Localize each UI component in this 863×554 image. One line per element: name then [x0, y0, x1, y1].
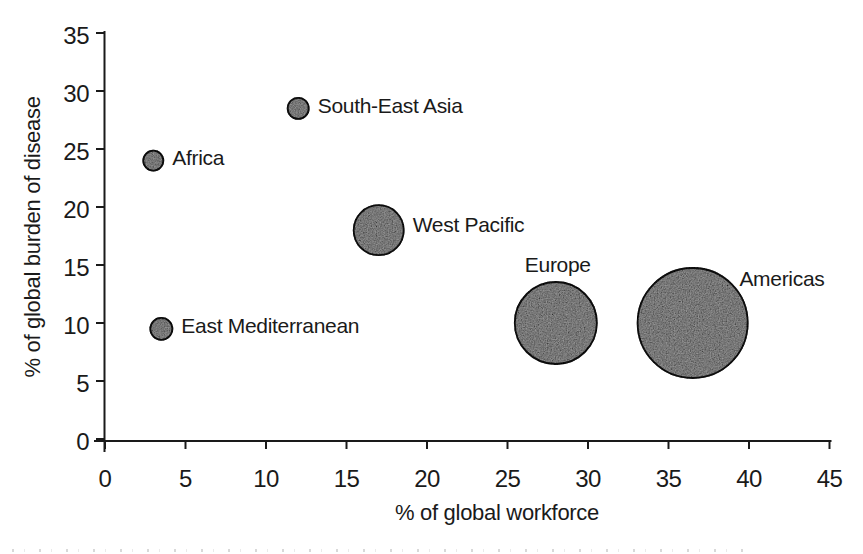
- x-tick-label-0: 0: [99, 465, 112, 492]
- bubble-east-mediterranean: [150, 318, 172, 340]
- x-axis-title: % of global workforce: [395, 500, 599, 525]
- y-tick-label-10: 10: [63, 312, 89, 339]
- bubble-west-pacific: [354, 205, 404, 255]
- cropped-caption-fragment: [12, 549, 753, 552]
- y-tick-label-5: 5: [76, 370, 89, 397]
- bubble-chart-figure: 05101520253035051015202530354045 South-E…: [0, 0, 863, 554]
- x-tick-label-20: 20: [414, 465, 440, 492]
- y-tick-label-15: 15: [63, 254, 89, 281]
- bubble-label-east-mediterranean: East Mediterranean: [181, 314, 359, 337]
- bubble-europe: [515, 282, 597, 364]
- x-tick-label-45: 45: [817, 465, 843, 492]
- x-tick-label-5: 5: [179, 465, 192, 492]
- y-axis-title: % of global burden of disease: [20, 96, 45, 377]
- x-tick-label-35: 35: [656, 465, 682, 492]
- x-tick-label-30: 30: [575, 465, 601, 492]
- bubble-label-americas: Americas: [739, 267, 824, 290]
- axes: 05101520253035051015202530354045: [63, 22, 842, 493]
- x-tick-label-10: 10: [253, 465, 279, 492]
- bubble-series: South-East AsiaAfricaWest PacificEast Me…: [143, 94, 824, 378]
- bubble-label-europe: Europe: [525, 253, 591, 276]
- x-tick-label-40: 40: [736, 465, 762, 492]
- chart-canvas: 05101520253035051015202530354045 South-E…: [0, 0, 863, 554]
- x-tick-label-25: 25: [495, 465, 521, 492]
- bubble-africa: [143, 151, 163, 171]
- y-tick-label-30: 30: [63, 80, 89, 107]
- y-tick-label-25: 25: [63, 138, 89, 165]
- bubble-label-africa: Africa: [172, 146, 225, 169]
- bubble-americas: [638, 268, 748, 378]
- y-tick-label-20: 20: [63, 196, 89, 223]
- bubble-label-south-east-asia: South-East Asia: [318, 94, 464, 117]
- y-tick-label-35: 35: [63, 22, 89, 49]
- y-tick-label-0: 0: [76, 428, 89, 455]
- bubble-label-west-pacific: West Pacific: [413, 213, 525, 236]
- bubble-south-east-asia: [288, 98, 309, 119]
- x-tick-label-15: 15: [334, 465, 360, 492]
